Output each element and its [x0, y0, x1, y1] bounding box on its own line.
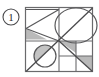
label-number: 1 — [8, 11, 14, 23]
geometric-figure-panel: 1 — [0, 0, 99, 77]
figure-canvas: 1 — [0, 0, 99, 77]
